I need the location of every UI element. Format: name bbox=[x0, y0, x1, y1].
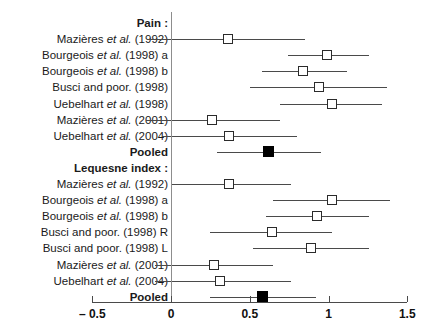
axis-tick bbox=[250, 296, 251, 302]
study-effect-marker bbox=[312, 211, 322, 221]
axis-tick bbox=[329, 296, 330, 302]
study-effect-marker bbox=[224, 131, 234, 141]
study-effect-marker bbox=[327, 99, 337, 109]
study-effect-marker bbox=[298, 66, 308, 76]
study-effect-marker bbox=[224, 179, 234, 189]
study-effect-marker bbox=[215, 276, 225, 286]
axis-tick-label: 1 bbox=[299, 308, 359, 321]
study-effect-marker bbox=[327, 195, 337, 205]
study-effect-marker bbox=[209, 260, 219, 270]
study-effect-marker bbox=[223, 34, 233, 44]
plot-area bbox=[0, 0, 434, 334]
axis-tick-label: 1.5 bbox=[377, 308, 434, 321]
axis-tick-label: 0 bbox=[141, 308, 201, 321]
pooled-effect-marker bbox=[263, 146, 274, 157]
axis-tick bbox=[92, 296, 93, 302]
study-effect-marker bbox=[267, 227, 277, 237]
study-effect-marker bbox=[306, 243, 316, 253]
study-effect-marker bbox=[322, 50, 332, 60]
axis-tick-label: 0.5 bbox=[220, 308, 280, 321]
study-effect-marker bbox=[207, 115, 217, 125]
axis-tick bbox=[171, 296, 172, 302]
axis-tick-label: – 0.5 bbox=[62, 308, 122, 321]
axis-tick bbox=[407, 296, 408, 302]
forest-plot-figure: Pain :Mazières et al. (1992)Bourgeois et… bbox=[0, 0, 434, 334]
zero-reference-line bbox=[171, 12, 172, 302]
study-effect-marker bbox=[314, 82, 324, 92]
axis-line bbox=[92, 302, 407, 303]
pooled-effect-marker bbox=[257, 291, 268, 302]
